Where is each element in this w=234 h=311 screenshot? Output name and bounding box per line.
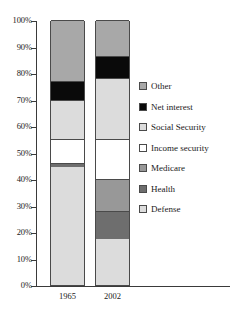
x-tick-label-2002: 2002 — [95, 291, 130, 301]
x-tick-label-1965: 1965 — [50, 291, 85, 301]
y-tick-label-30: 30% — [0, 202, 32, 211]
legend-item-health[interactable]: Health — [139, 179, 209, 200]
bar-segment-2002-health — [96, 211, 129, 239]
y-tick-label-50: 50% — [0, 149, 32, 158]
legend-item-social-security[interactable]: Social Security — [139, 117, 209, 138]
y-tick-label-80: 80% — [0, 69, 32, 78]
bar-segment-1965-net-interest — [51, 81, 84, 100]
bar-column-2002 — [95, 21, 130, 286]
bar-segment-1965-defense — [51, 167, 84, 285]
legend-swatch-social-security — [139, 123, 147, 131]
y-tick-label-70: 70% — [0, 96, 32, 105]
y-tick-label-100: 100% — [0, 16, 32, 25]
bar-segment-1965-health — [51, 163, 84, 167]
legend-swatch-other — [139, 82, 147, 90]
chart-legend: OtherNet interestSocial SecurityIncome s… — [139, 76, 209, 220]
bar-segment-2002-other — [96, 20, 129, 56]
legend-swatch-net-interest — [139, 103, 147, 111]
legend-swatch-defense — [139, 205, 147, 213]
legend-swatch-income-security — [139, 144, 147, 152]
bar-segment-2002-social-security — [96, 78, 129, 139]
legend-item-net-interest[interactable]: Net interest — [139, 97, 209, 118]
bar-segment-1965-social-security — [51, 100, 84, 140]
x-axis-line — [36, 286, 230, 287]
legend-label-other: Other — [151, 81, 172, 91]
y-tick-label-40: 40% — [0, 175, 32, 184]
y-axis: 0%10%20%30%40%50%60%70%80%90%100% — [0, 0, 32, 311]
legend-label-income-security: Income security — [151, 143, 209, 153]
bar-segment-2002-income-security — [96, 139, 129, 179]
legend-label-medicare: Medicare — [151, 163, 185, 173]
bar-stack-1965 — [50, 21, 85, 286]
bar-segment-1965-other — [51, 20, 84, 81]
bar-segment-2002-net-interest — [96, 56, 129, 79]
y-tick-label-20: 20% — [0, 228, 32, 237]
stacked-bar-chart: 0%10%20%30%40%50%60%70%80%90%100% OtherN… — [0, 0, 234, 311]
legend-swatch-medicare — [139, 164, 147, 172]
y-tick-label-90: 90% — [0, 43, 32, 52]
legend-label-social-security: Social Security — [151, 122, 206, 132]
legend-item-defense[interactable]: Defense — [139, 199, 209, 220]
legend-swatch-health — [139, 185, 147, 193]
bar-stack-2002 — [95, 21, 130, 286]
bar-segment-2002-medicare — [96, 179, 129, 211]
bar-column-1965 — [50, 21, 85, 286]
legend-label-health: Health — [151, 184, 175, 194]
bar-segment-2002-defense — [96, 239, 129, 285]
legend-item-medicare[interactable]: Medicare — [139, 158, 209, 179]
legend-label-defense: Defense — [151, 204, 180, 214]
bar-segment-1965-income-security — [51, 139, 84, 163]
y-tick-label-10: 10% — [0, 255, 32, 264]
y-tick-label-60: 60% — [0, 122, 32, 131]
legend-item-other[interactable]: Other — [139, 76, 209, 97]
legend-label-net-interest: Net interest — [151, 102, 193, 112]
y-tick-label-0: 0% — [0, 281, 32, 290]
legend-item-income-security[interactable]: Income security — [139, 138, 209, 159]
